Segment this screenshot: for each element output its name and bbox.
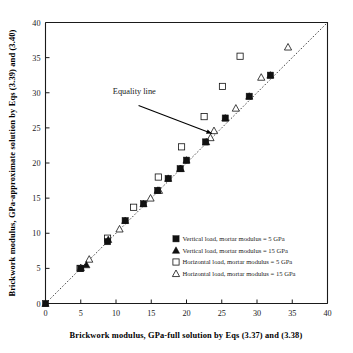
x-axis-title: Brickwork modulus, GPa-full solution by … (70, 331, 303, 340)
legend-item-label: Horizontal load, mortar modulus = 15 GPa (183, 270, 296, 277)
x-tick-label: 5 (79, 309, 83, 318)
y-tick-label: 0 (36, 300, 40, 309)
x-tick-label: 40 (323, 309, 331, 318)
x-tick-label: 30 (253, 309, 261, 318)
y-tick-label: 20 (32, 159, 40, 168)
y-tick-label: 25 (32, 124, 40, 133)
marker-filled-square (173, 236, 179, 242)
y-tick-label: 10 (32, 229, 40, 238)
plot-background (0, 0, 353, 353)
marker-open-square (237, 53, 243, 59)
legend-item[interactable]: Vertical load, mortar modulus = 5 GPa (173, 235, 285, 242)
y-tick-label: 5 (36, 264, 40, 273)
y-tick-label: 35 (32, 54, 40, 63)
y-tick-label: 15 (32, 194, 40, 203)
legend-item-label: Vertical load, mortar modulus = 5 GPa (183, 235, 285, 242)
legend-item[interactable]: Horizontal load, mortar modulus = 15 GPa (172, 270, 295, 277)
x-tick-label: 0 (43, 309, 47, 318)
marker-open-square (131, 204, 137, 210)
x-tick-label: 20 (182, 309, 190, 318)
x-tick-label: 25 (218, 309, 226, 318)
legend-item[interactable]: Vertical load, mortar modulus = 15 GPa (172, 247, 288, 254)
scatter-plot: 05101520253035400510152025303540 Equalit… (0, 0, 353, 353)
legend-item-label: Horizontal load, mortar modulus = 5 GPa (183, 258, 293, 265)
y-axis-title: Brickwork modulus, GPa-approximate solut… (8, 29, 17, 296)
legend-item[interactable]: Horizontal load, mortar modulus = 5 GPa (173, 258, 292, 265)
x-tick-label: 10 (112, 309, 120, 318)
annotation-label: Equality line (113, 87, 156, 96)
y-tick-label: 40 (32, 19, 40, 28)
x-tick-label: 35 (288, 309, 296, 318)
marker-open-square (173, 259, 179, 265)
chart-figure: 05101520253035400510152025303540 Equalit… (0, 0, 353, 353)
marker-open-square (155, 174, 161, 180)
x-tick-label: 15 (147, 309, 155, 318)
legend-item-label: Vertical load, mortar modulus = 15 GPa (183, 247, 288, 254)
marker-filled-square (78, 265, 84, 271)
y-tick-label: 30 (32, 89, 40, 98)
marker-open-square (178, 144, 184, 150)
marker-open-square (201, 114, 207, 120)
marker-open-square (219, 83, 225, 89)
